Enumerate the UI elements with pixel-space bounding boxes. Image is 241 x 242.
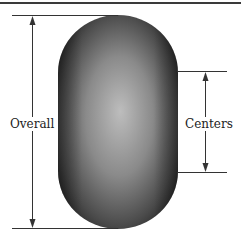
arrow-up-icon <box>30 16 36 25</box>
arrow-up-icon <box>203 72 209 81</box>
overall-label: Overall <box>9 117 55 131</box>
arrow-down-icon <box>30 219 36 228</box>
arrow-down-icon <box>203 163 209 172</box>
centers-label: Centers <box>184 117 234 131</box>
capsule-shape <box>58 15 178 229</box>
